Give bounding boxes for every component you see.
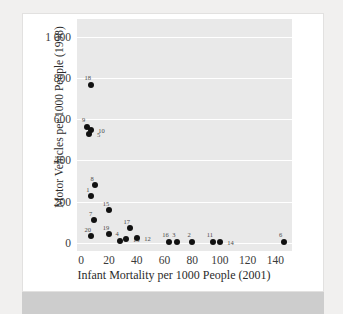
- x-axis-title: Infant Mortality per 1000 People (2001): [23, 268, 325, 283]
- data-point-label: 14: [227, 239, 234, 246]
- data-point: [106, 207, 112, 213]
- data-point: [91, 217, 97, 223]
- gridline: [77, 78, 292, 79]
- data-point-label: 18: [85, 74, 92, 81]
- data-point: [217, 239, 223, 245]
- y-tick-label: 200: [27, 196, 71, 208]
- data-point-label: 20: [85, 225, 92, 232]
- data-point-label: 2: [188, 231, 191, 238]
- plot-area: 9105181872015194131712163211146: [77, 19, 292, 251]
- data-point: [134, 235, 140, 241]
- data-point-label: 7: [89, 209, 92, 216]
- data-point: [123, 236, 129, 242]
- data-point: [189, 239, 195, 245]
- data-point: [88, 82, 94, 88]
- y-tick-label: 1 000: [27, 31, 71, 43]
- cropped-caption-text: [22, 305, 324, 314]
- data-point-label: 5: [97, 131, 100, 138]
- data-point: [174, 239, 180, 245]
- y-tick-label: 400: [27, 154, 71, 166]
- gridline: [77, 202, 292, 203]
- data-point-label: 16: [162, 231, 169, 238]
- data-point: [88, 233, 94, 239]
- data-point: [127, 225, 133, 231]
- data-point-label: 6: [279, 231, 282, 238]
- gridline: [77, 160, 292, 161]
- data-point: [166, 239, 172, 245]
- data-point-label: 19: [103, 223, 110, 230]
- x-tick-label: 140: [258, 254, 292, 266]
- data-point: [92, 182, 98, 188]
- data-point-label: 3: [172, 231, 175, 238]
- gridline: [77, 119, 292, 120]
- data-point: [281, 239, 287, 245]
- data-point: [210, 239, 216, 245]
- data-point-label: 1: [86, 185, 89, 192]
- y-tick-label: 0: [27, 237, 71, 249]
- scatter-chart-figure: Motor Vehicles per 1000 People (1998) 91…: [22, 13, 324, 292]
- data-point-label: 11: [207, 231, 213, 238]
- data-point-label: 15: [103, 199, 110, 206]
- y-tick-label: 800: [27, 72, 71, 84]
- data-point-label: 12: [144, 235, 151, 242]
- data-point-label: 4: [115, 230, 118, 237]
- gridline: [77, 37, 292, 38]
- data-point-label: 8: [90, 174, 93, 181]
- gridline: [77, 243, 292, 244]
- page-background: Motor Vehicles per 1000 People (1998) 91…: [0, 0, 343, 314]
- data-point-label: 17: [123, 217, 130, 224]
- data-point: [88, 193, 94, 199]
- y-tick-label: 600: [27, 113, 71, 125]
- data-point: [86, 131, 92, 137]
- data-point: [106, 231, 112, 237]
- data-point-label: 9: [82, 116, 85, 123]
